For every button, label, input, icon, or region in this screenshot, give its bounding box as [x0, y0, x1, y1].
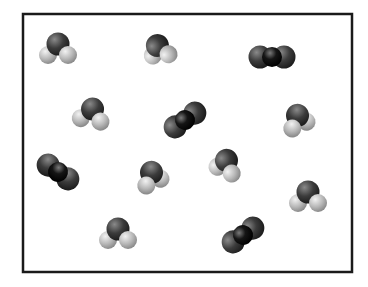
molecule-diagram — [0, 0, 368, 287]
hydrogen-atom — [119, 231, 137, 249]
carbon-dioxide-molecule — [249, 46, 296, 69]
carbon-atom — [262, 47, 282, 67]
hydrogen-atom — [309, 194, 327, 212]
hydrogen-atom — [59, 46, 77, 64]
